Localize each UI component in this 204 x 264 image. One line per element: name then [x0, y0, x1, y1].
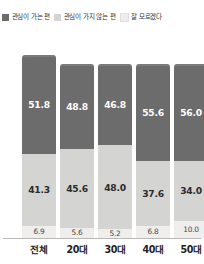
- bar-segment-not-interested: 37.6: [136, 161, 170, 226]
- category-label-2: 20대: [60, 243, 94, 257]
- bar-segment-value-label: 51.8: [28, 100, 49, 109]
- bar-segment-interested: 46.8: [98, 64, 132, 145]
- category-label-1: 전체: [22, 243, 56, 257]
- legend-swatch-icon: [2, 14, 9, 21]
- bar-segment-interested: 56.0: [174, 64, 204, 161]
- category-label-4: 40대: [136, 243, 170, 257]
- bar-group: 51.841.36.9: [22, 26, 56, 238]
- category-label-3: 30대: [98, 243, 132, 257]
- bar-segment-interested: 55.6: [136, 64, 170, 161]
- category-label-5: 50대: [174, 243, 204, 257]
- legend-label: 관심이 가지 않는 편: [64, 14, 116, 21]
- bar-segment-interested: 51.8: [22, 55, 56, 154]
- legend-item-not-interested: 관심이 가지 않는 편: [54, 14, 116, 21]
- bar-segment-dont-know: 6.9: [22, 226, 56, 238]
- legend-item-dont-know: 잘 모르겠다: [120, 13, 162, 22]
- bar-segment-dont-know: 10.0: [174, 221, 204, 238]
- x-axis-line: [3, 238, 201, 239]
- bar-segment-not-interested: 34.0: [174, 161, 204, 220]
- legend-label: 관심이 가는 편: [12, 14, 51, 21]
- bar-segment-not-interested: 41.3: [22, 154, 56, 226]
- bar-group: 46.848.05.2: [98, 26, 132, 238]
- legend-item-interested: 관심이 가는 편: [2, 14, 50, 21]
- chart-legend: 관심이 가는 편 관심이 가지 않는 편 잘 모르겠다: [2, 11, 202, 23]
- bar-segment-value-label: 45.6: [66, 184, 87, 193]
- legend-swatch-icon: [54, 14, 61, 21]
- bar-segment-value-label: 46.8: [104, 100, 125, 109]
- bar-segment-value-label: 48.0: [104, 183, 125, 192]
- bar-segment-value-label: 56.0: [180, 108, 201, 117]
- bar-segment-dont-know: 6.8: [136, 226, 170, 238]
- bar-segment-value-label: 5.6: [72, 229, 83, 236]
- bar-segment-value-label: 41.3: [28, 185, 49, 194]
- bar-segment-value-label: 37.6: [142, 189, 163, 198]
- bar-group: 56.034.010.0: [174, 26, 204, 238]
- bar-segment-value-label: 6.8: [148, 228, 159, 235]
- bar-segment-dont-know: 5.6: [60, 228, 94, 238]
- legend-label: 잘 모르겠다: [131, 14, 162, 21]
- bar-segment-value-label: 48.8: [66, 102, 87, 111]
- bar-segment-dont-know: 5.2: [98, 229, 132, 238]
- bar-group: 55.637.66.8: [136, 26, 170, 238]
- bar-segment-value-label: 55.6: [142, 108, 163, 117]
- bar-segment-interested: 48.8: [60, 64, 94, 149]
- bar-segment-not-interested: 48.0: [98, 145, 132, 229]
- legend-swatch-icon: [120, 13, 129, 22]
- bar-segment-value-label: 5.2: [110, 230, 121, 237]
- bar-segment-value-label: 6.9: [34, 228, 45, 235]
- bar-segment-not-interested: 45.6: [60, 149, 94, 228]
- bar-segment-value-label: 34.0: [180, 186, 201, 195]
- bar-segment-value-label: 10.0: [183, 226, 198, 233]
- chart-plot-area: 51.841.36.948.845.65.646.848.05.255.637.…: [0, 26, 204, 238]
- x-axis-category-labels: 전체20대30대40대50대: [0, 243, 204, 261]
- bar-group: 48.845.65.6: [60, 26, 94, 238]
